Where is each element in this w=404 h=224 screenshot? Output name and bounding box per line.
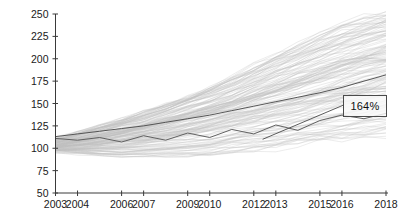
y-tick-label: 75 bbox=[0, 166, 49, 177]
y-tick-label: 125 bbox=[0, 121, 49, 132]
growth-callout-label: 164% bbox=[350, 100, 379, 112]
series-bundle bbox=[56, 11, 387, 157]
y-tick-label: 100 bbox=[0, 143, 49, 154]
x-tick-label: 2004 bbox=[58, 199, 98, 210]
y-tick-label: 175 bbox=[0, 76, 49, 87]
x-tick-label: 2016 bbox=[322, 199, 362, 210]
growth-callout-box: 164% bbox=[343, 95, 387, 117]
y-tick-label: 50 bbox=[0, 188, 49, 199]
y-tick-label: 225 bbox=[0, 31, 49, 42]
y-tick-label: 200 bbox=[0, 54, 49, 65]
x-tick-label: 2007 bbox=[124, 199, 164, 210]
y-tick-label: 250 bbox=[0, 9, 49, 20]
y-tick-label: 150 bbox=[0, 99, 49, 110]
spaghetti-chart: 5075100125150175200225250 20032004200620… bbox=[0, 0, 404, 224]
x-tick-label: 2010 bbox=[190, 199, 230, 210]
x-tick-label: 2018 bbox=[366, 199, 404, 210]
x-tick-label: 2013 bbox=[256, 199, 296, 210]
